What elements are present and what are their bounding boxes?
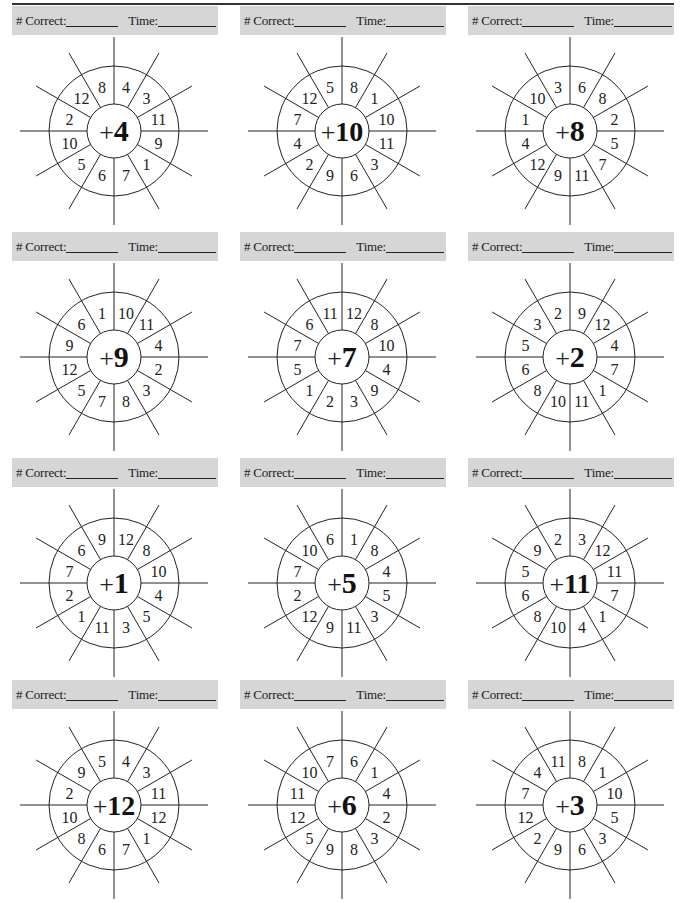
addend-label: +8 [555,114,585,147]
sector-number: 9 [98,531,106,548]
plus-sign: + [99,344,114,373]
plus-sign: + [549,570,564,599]
sector-number: 1 [599,382,607,399]
addend-number: 1 [114,566,129,599]
sector-number: 8 [77,830,85,847]
sector-number: 12 [595,316,611,333]
sector-number: 10 [301,542,317,559]
sector-number: 2 [326,393,334,410]
sector-number: 4 [382,361,390,378]
addend-label: +11 [549,568,590,599]
sector-number: 12 [62,361,78,378]
sector-number: 9 [554,841,562,858]
sector-number: 4 [294,135,302,152]
sector-number: 1 [305,382,313,399]
addend-number: 6 [342,788,357,821]
addend-number: 10 [335,116,363,147]
sector-number: 7 [98,393,106,410]
plus-sign: + [327,792,342,821]
sector-number: 3 [554,79,562,96]
sector-number: 6 [326,531,334,548]
addition-wheel-cell-4: # Correct:Time: 101142387512961+9 [12,232,240,456]
sector-number: 5 [382,587,390,604]
sector-number: 3 [350,393,358,410]
sector-number: 1 [143,830,151,847]
sector-number: 6 [350,753,358,770]
sector-number: 12 [301,90,317,107]
addend-number: 3 [570,788,585,821]
sector-number: 12 [290,809,306,826]
addition-wheel-cell-6: # Correct:Time: 912471111086532+2 [468,232,684,456]
addend-label: +6 [327,788,357,821]
sector-number: 7 [294,111,302,128]
sector-number: 11 [290,785,305,802]
sector-number: 8 [599,90,607,107]
sector-number: 7 [610,361,618,378]
addend-label: +5 [327,566,357,599]
sector-number: 9 [326,619,334,636]
addition-wheel-cell-5: # Correct:Time: 128104932157611+7 [240,232,468,456]
sector-number: 7 [326,753,334,770]
sector-number: 4 [382,563,390,580]
sector-number: 5 [610,135,618,152]
sector-number: 1 [599,764,607,781]
addend-label: +7 [327,340,357,373]
sector-number: 4 [154,337,162,354]
addition-wheel: 614238951211107+6 [240,680,446,903]
sector-number: 8 [122,393,130,410]
sector-number: 5 [77,156,85,173]
sector-number: 3 [371,156,379,173]
sector-number: 1 [371,90,379,107]
sector-number: 2 [610,111,618,128]
addition-wheel: 101142387512961+9 [12,232,218,456]
plus-sign: + [99,570,114,599]
plus-sign: + [555,118,570,147]
sector-number: 3 [578,531,586,548]
plus-sign: + [327,344,342,373]
sector-number: 3 [122,619,130,636]
sector-number: 9 [77,764,85,781]
addition-wheel: 128104932157611+7 [240,232,446,456]
sector-number: 4 [578,619,586,636]
plus-sign: + [321,118,336,147]
sector-number: 7 [122,841,130,858]
addition-wheel: 431191765102128+4 [12,6,218,230]
sector-number: 6 [77,542,85,559]
sector-number: 8 [578,753,586,770]
sector-number: 5 [326,79,334,96]
sector-number: 2 [305,156,313,173]
sector-number: 1 [98,305,106,322]
sector-number: 6 [522,361,530,378]
addition-wheel-cell-11: # Correct:Time: 614238951211107+6 [240,680,468,903]
addend-number: 11 [564,568,590,599]
sector-number: 9 [578,305,586,322]
sector-number: 10 [378,337,394,354]
sector-number: 1 [371,764,379,781]
addition-wheel: 811011369247125+10 [240,6,446,230]
sector-number: 12 [118,531,134,548]
sector-number: 8 [143,542,151,559]
sector-number: 6 [77,316,85,333]
sector-number: 2 [154,361,162,378]
sector-number: 9 [533,542,541,559]
addition-wheel: 312117141086592+11 [468,458,674,682]
sector-number: 7 [610,587,618,604]
sector-number: 6 [578,79,586,96]
sector-number: 10 [150,563,166,580]
sector-number: 6 [98,841,106,858]
sector-number: 12 [595,542,611,559]
sector-number: 4 [122,753,130,770]
sector-number: 1 [599,608,607,625]
addend-number: 7 [342,340,357,373]
sector-number: 4 [382,785,390,802]
sector-number: 11 [151,785,166,802]
addition-wheel: 811053692127411+3 [468,680,674,903]
sector-number: 9 [554,167,562,184]
sector-number: 6 [98,167,106,184]
addition-wheel-cell-8: # Correct:Time: 184531191227106+5 [240,458,468,682]
sector-number: 10 [301,764,317,781]
sector-number: 2 [66,587,74,604]
sector-number: 3 [371,830,379,847]
plus-sign: + [93,792,108,821]
addend-label: +10 [321,116,364,147]
